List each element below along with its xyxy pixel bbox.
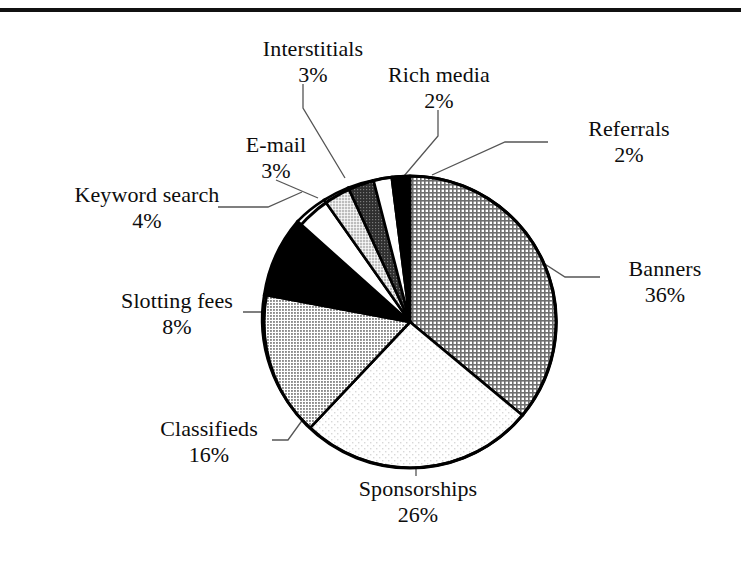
pie-label-keyword-search: Keyword search 4% <box>36 182 258 234</box>
pie-label-banners-name: Banners <box>600 256 730 282</box>
pie-label-slotting-fees-name: Slotting fees <box>82 288 272 314</box>
pie-label-referrals-percent: 2% <box>548 142 710 168</box>
pie-label-rich-media-percent: 2% <box>358 88 520 114</box>
pie-label-slotting-fees: Slotting fees 8% <box>82 288 272 340</box>
pie-label-referrals-name: Referrals <box>548 116 710 142</box>
leader-line-referrals <box>432 142 548 175</box>
pie-label-keyword-search-name: Keyword search <box>36 182 258 208</box>
chart-plot-area: Interstitials 3% Rich media 2% Referrals… <box>0 0 741 566</box>
pie-label-keyword-search-percent: 4% <box>36 208 258 234</box>
pie-label-sponsorships-name: Sponsorships <box>318 476 518 502</box>
pie-label-classifieds: Classifieds 16% <box>120 416 298 468</box>
pie-label-rich-media-name: Rich media <box>358 62 520 88</box>
pie-label-banners-percent: 36% <box>600 282 730 308</box>
pie-chart-figure: Interstitials 3% Rich media 2% Referrals… <box>0 0 741 566</box>
pie-slices <box>262 176 556 468</box>
pie-label-slotting-fees-percent: 8% <box>82 314 272 340</box>
pie-label-referrals: Referrals 2% <box>548 116 710 168</box>
pie-label-sponsorships: Sponsorships 26% <box>318 476 518 528</box>
pie-label-email-percent: 3% <box>218 158 334 184</box>
pie-label-classifieds-percent: 16% <box>120 442 298 468</box>
pie-label-classifieds-name: Classifieds <box>120 416 298 442</box>
pie-label-email-name: E-mail <box>218 132 334 158</box>
pie-label-email: E-mail 3% <box>218 132 334 184</box>
leader-line-rich-media <box>404 110 438 176</box>
pie-label-banners: Banners 36% <box>600 256 730 308</box>
pie-label-interstitials-name: Interstitials <box>238 36 388 62</box>
pie-label-rich-media: Rich media 2% <box>358 62 520 114</box>
pie-label-sponsorships-percent: 26% <box>318 502 518 528</box>
